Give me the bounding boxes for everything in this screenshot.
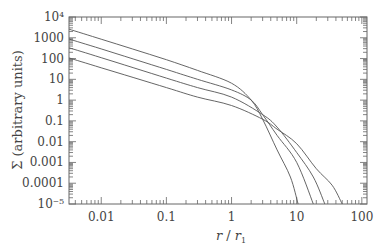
chart: 0.010.1110100 10⁴10001001010.10.010.0010… <box>0 0 380 247</box>
curve-4 <box>69 58 342 204</box>
y-tick-label: 10⁴ <box>44 10 64 24</box>
y-tick-label: 10⁻⁵ <box>38 197 65 211</box>
curves <box>69 29 342 204</box>
curve-3 <box>69 48 325 204</box>
axis-ticks <box>69 17 367 204</box>
y-tick-label: 1000 <box>33 31 64 45</box>
x-tick-label: 0.1 <box>157 210 176 224</box>
x-tick-label: 100 <box>350 210 373 224</box>
y-tick-label: 100 <box>41 52 64 66</box>
x-tick-label: 10 <box>289 210 304 224</box>
x-tick-label: 0.01 <box>88 210 115 224</box>
x-tick-labels: 0.010.1110100 <box>88 210 373 224</box>
y-tick-label: 10 <box>49 72 64 86</box>
y-tick-label: 0.1 <box>45 114 64 128</box>
y-tick-label: 1 <box>56 93 64 107</box>
curve-2 <box>69 39 313 204</box>
y-tick-label: 0.001 <box>30 155 64 169</box>
y-tick-labels: 10⁴10001001010.10.010.0010.000110⁻⁵ <box>22 10 64 211</box>
plot-frame <box>69 17 367 204</box>
y-axis-label: Σ (arbitrary units) <box>10 50 25 170</box>
y-tick-label: 0.01 <box>37 135 64 149</box>
x-axis-label: r / r1 <box>216 228 246 245</box>
x-tick-label: 1 <box>228 210 236 224</box>
y-tick-label: 0.0001 <box>22 176 64 190</box>
